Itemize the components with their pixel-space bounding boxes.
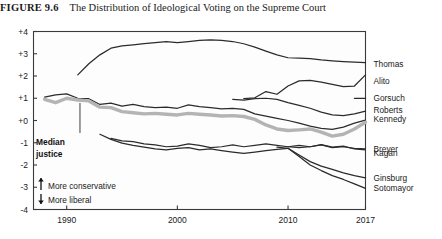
x-tick-label: 1990 (57, 215, 76, 225)
y-tick-label: +3 (18, 49, 28, 59)
y-tick-label: +0 (18, 116, 28, 126)
line-chart: +4+3+2+1+0-1-2-3-41990200020102017 Thoma… (0, 0, 442, 239)
y-tick-label: +1 (18, 93, 28, 103)
series-label-sotomayor: Sotomayor (374, 183, 414, 193)
y-tick-label: -3 (20, 182, 28, 192)
median-annotation-line2: justice (35, 149, 63, 159)
series-label-thomas: Thomas (374, 59, 404, 69)
y-tick-label: +4 (18, 27, 28, 37)
series-label-kagan: Kagan (374, 148, 398, 158)
x-tick-label: 2010 (279, 215, 298, 225)
y-tick-label: -2 (20, 160, 28, 170)
median-annotation-line1: Median (36, 137, 65, 147)
series-label-ginsburg: Ginsburg (374, 173, 408, 183)
more-conservative-label: More conservative (48, 181, 116, 191)
y-tick-label: -4 (20, 205, 28, 215)
series-label-gorsuch: Gorsuch (374, 93, 406, 103)
y-tick-label: +2 (18, 71, 28, 81)
series-label-kennedy: Kennedy (374, 114, 408, 124)
more-liberal-label: More liberal (48, 195, 92, 205)
y-tick-label: -1 (20, 138, 28, 148)
figure-container: FIGURE 9.6The Distribution of Ideologica… (0, 0, 442, 239)
x-tick-label: 2000 (168, 215, 187, 225)
x-tick-label: 2017 (356, 215, 375, 225)
series-label-alito: Alito (374, 76, 391, 86)
